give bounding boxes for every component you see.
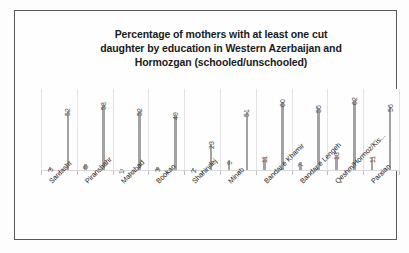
- bar: [389, 107, 392, 170]
- bar: [246, 112, 249, 170]
- axis-tick: [220, 171, 221, 175]
- gridline: [256, 89, 257, 171]
- axis-tick: [113, 171, 114, 175]
- gridline: [148, 89, 149, 171]
- bar-value-label: 62: [351, 97, 358, 105]
- gridline: [77, 89, 78, 171]
- bar-value-label: 51: [243, 110, 250, 118]
- bar-value-label: 60: [279, 99, 286, 107]
- bar-value-label: 58: [100, 102, 107, 110]
- axis-tick: [41, 171, 42, 175]
- axis-tick: [184, 171, 185, 175]
- axis-tick: [148, 171, 149, 175]
- bar-value-label: 52: [136, 109, 143, 117]
- bar: [174, 115, 177, 170]
- axis-tick: [363, 171, 364, 175]
- chart-screenshot: Percentage of mothers with at least one …: [0, 0, 409, 253]
- axis-tick: [327, 171, 328, 175]
- axis-tick: [292, 171, 293, 175]
- bar-value-label: 49: [172, 112, 179, 120]
- bar-value-label: 11: [261, 155, 268, 162]
- gridline: [184, 89, 185, 171]
- chart-title-line-3: Hormozgan (schooled/unschooled): [41, 55, 401, 69]
- chart-frame: Percentage of mothers with at least one …: [14, 10, 397, 240]
- bar-value-label: 56: [387, 104, 394, 112]
- bar-value-label: 55: [315, 105, 322, 113]
- bar-value-label: 7: [297, 163, 304, 167]
- chart-title: Percentage of mothers with at least one …: [41, 27, 401, 69]
- bar-value-label: 3: [154, 168, 161, 172]
- bar-value-label: 11: [369, 155, 376, 162]
- gridline: [113, 89, 114, 171]
- chart-title-line-2: daughter by education in Western Azerbai…: [41, 41, 401, 55]
- bar-value-label: 5: [82, 165, 89, 169]
- gridline: [399, 89, 400, 171]
- gridline: [41, 89, 42, 171]
- gridline: [220, 89, 221, 171]
- axis-tick: [399, 171, 400, 175]
- chart-title-line-1: Percentage of mothers with at least one …: [41, 27, 401, 41]
- bar-value-label: 9: [226, 161, 233, 165]
- axis-tick: [77, 171, 78, 175]
- bar-value-label: 52: [64, 109, 71, 117]
- bar-value-label: 23: [208, 141, 215, 149]
- axis-tick: [256, 171, 257, 175]
- plot-area: 352558152349223951116075513621156 Sardas…: [41, 89, 399, 171]
- bar-value-label: 3: [47, 168, 54, 172]
